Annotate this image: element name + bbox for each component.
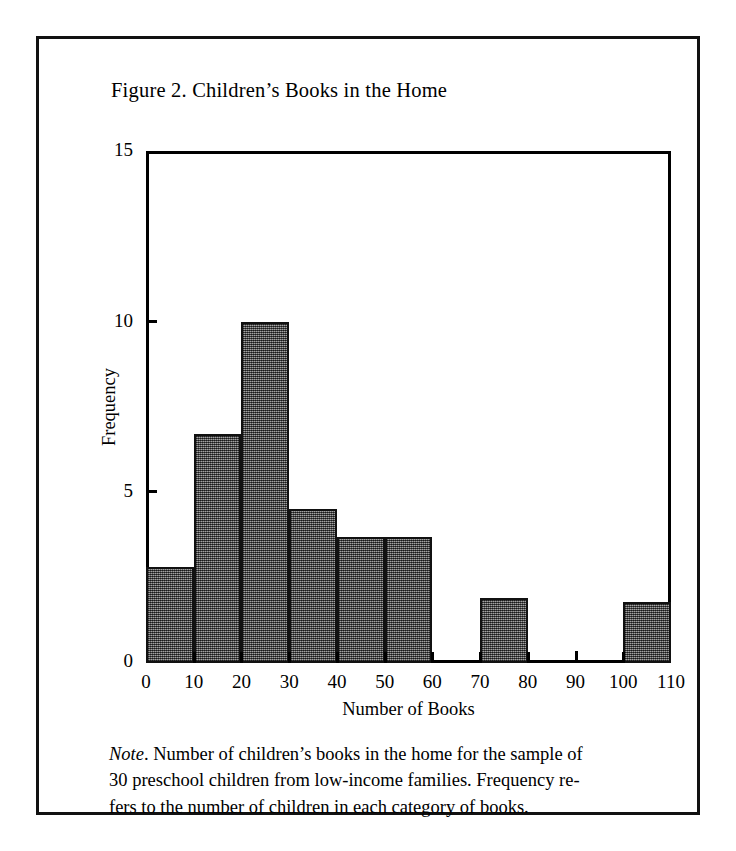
x-tick-label: 10	[184, 672, 203, 691]
x-tick-label: 30	[280, 672, 299, 691]
x-tick-mark	[288, 652, 291, 663]
x-tick-label: 70	[471, 672, 490, 691]
x-tick-mark	[622, 652, 625, 663]
y-tick-mark	[146, 320, 157, 323]
histogram-bar	[289, 509, 337, 663]
x-tick-mark	[240, 652, 243, 663]
histogram-bar	[337, 537, 385, 663]
y-tick-label: 15	[114, 140, 133, 159]
x-tick-mark	[527, 652, 530, 663]
histogram-bar	[194, 434, 242, 663]
histogram-bar	[146, 567, 194, 663]
x-tick-mark	[479, 652, 482, 663]
histogram-bar	[623, 602, 671, 663]
x-tick-label: 20	[232, 672, 251, 691]
figure-note: Note. Number of children’s books in the …	[109, 741, 669, 820]
x-tick-mark	[575, 652, 578, 663]
note-line-0: . Number of children’s books in the home…	[144, 744, 583, 764]
note-label: Note	[109, 744, 144, 764]
histogram-chart: 051015 0102030405060708090100110 Number …	[146, 151, 671, 663]
note-line-2: fers to the number of children in each c…	[109, 797, 529, 817]
y-tick-label: 5	[124, 481, 134, 500]
y-tick-mark	[146, 490, 157, 493]
x-tick-label: 90	[566, 672, 585, 691]
x-tick-mark	[384, 652, 387, 663]
figure-frame: Figure 2. Children’s Books in the Home 0…	[36, 36, 700, 815]
x-tick-label: 80	[518, 672, 537, 691]
figure-title: Figure 2. Children’s Books in the Home	[111, 79, 447, 102]
x-tick-label: 0	[141, 672, 151, 691]
y-tick-label: 0	[124, 651, 134, 670]
x-tick-label: 40	[327, 672, 346, 691]
histogram-bar	[385, 537, 433, 663]
x-tick-label: 50	[375, 672, 394, 691]
x-tick-mark	[431, 652, 434, 663]
y-axis-title: Frequency	[99, 368, 120, 446]
x-tick-label: 110	[657, 672, 685, 691]
x-tick-label: 60	[423, 672, 442, 691]
x-tick-label: 100	[609, 672, 638, 691]
x-tick-mark	[193, 652, 196, 663]
histogram-bar	[480, 598, 528, 663]
x-axis-title: Number of Books	[146, 699, 671, 720]
histogram-bar	[241, 322, 289, 663]
y-tick-label: 10	[114, 311, 133, 330]
note-line-1: 30 preschool children from low-income fa…	[109, 770, 580, 790]
bars-layer	[146, 151, 671, 663]
x-tick-mark	[336, 652, 339, 663]
